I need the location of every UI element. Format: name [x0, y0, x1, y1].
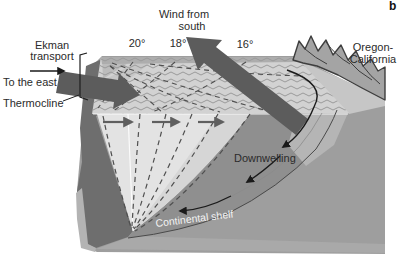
isotherm-label-18: 18° [170, 37, 187, 49]
downwelling-label: Downwelling [234, 152, 296, 164]
figure-downwelling-diagram: b Wind from south Ekman transport To the… [0, 0, 401, 269]
ekman-label-line2: transport [30, 50, 73, 62]
wind-label-line1: Wind from [159, 8, 209, 20]
panel-label: b [389, 0, 396, 13]
thermocline-label: Thermocline [3, 97, 64, 109]
region-label-line1: Oregon- [353, 41, 394, 53]
to-the-east-label: To the east [3, 76, 57, 88]
isotherm-label-20: 20° [129, 37, 146, 49]
thermocline-pointer-line [63, 95, 79, 101]
isotherm-label-16: 16° [237, 38, 254, 50]
wind-label-line2: south [179, 20, 206, 32]
region-label-line2: California [350, 53, 397, 65]
